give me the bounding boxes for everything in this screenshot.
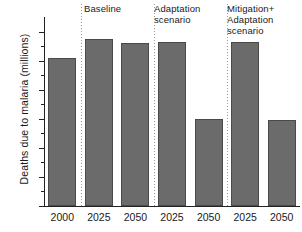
y-tick-minor [41,162,44,163]
y-tick-minor [41,75,44,76]
y-tick-major [39,119,44,120]
bar [121,43,149,206]
y-tick-minor [41,46,44,47]
bar [268,120,296,206]
x-axis-line [44,206,300,207]
y-tick-major [39,61,44,62]
bar [48,58,76,206]
y-tick-minor [41,133,44,134]
group-separator [154,4,155,206]
bar-chart: Baseline Adaptation scenario Mitigation+… [0,0,302,232]
y-tick-major [39,206,44,207]
y-tick-major [39,32,44,33]
x-tick-label: 2050 [260,211,302,223]
group-header-baseline: Baseline [84,3,121,14]
y-tick-minor [41,191,44,192]
y-tick-major [39,148,44,149]
y-tick-major [39,90,44,91]
y-tick-major [39,177,44,178]
bar [158,42,186,206]
plot-area: 0.00.20.40.60.81.01.2 200020252050202520… [44,17,300,207]
group-separator [81,4,82,206]
bar [195,119,223,206]
bar [231,42,259,206]
y-axis-line [44,17,45,207]
group-separator [227,4,228,206]
y-tick-minor [41,104,44,105]
y-axis-title: Deaths due to malaria (millions) [18,9,30,209]
bar [85,39,113,206]
